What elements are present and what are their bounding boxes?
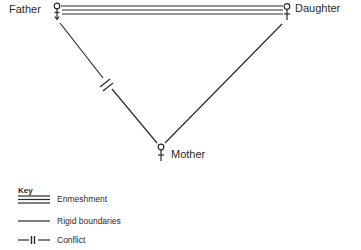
family-diagram — [0, 0, 361, 250]
male-symbol-icon — [54, 3, 60, 19]
key-label-enmeshment: Enmeshment — [57, 194, 107, 204]
rigid-boundary-line — [165, 24, 282, 143]
conflict-line — [60, 23, 157, 143]
daughter-label: Daughter — [295, 2, 340, 15]
key-label-conflict: Conflict — [57, 235, 85, 245]
key-conflict-icon — [18, 236, 50, 244]
female-symbol-icon — [158, 144, 164, 161]
mother-label: Mother — [171, 148, 205, 161]
enmeshment-lines — [61, 6, 283, 14]
key-title: Key — [18, 186, 33, 195]
key-label-rigid-boundaries: Rigid boundaries — [57, 216, 121, 226]
key-enmeshment-icon — [18, 196, 50, 203]
father-label: Father — [9, 3, 41, 16]
female-symbol-icon — [284, 4, 290, 20]
